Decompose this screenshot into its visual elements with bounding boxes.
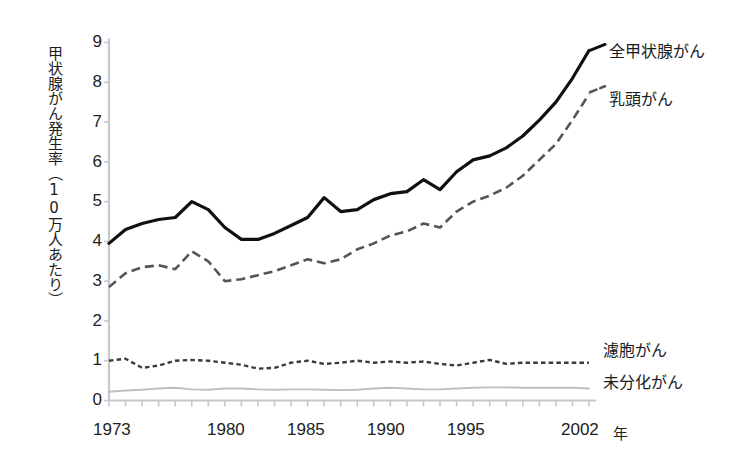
series-leader-all-thyroid	[590, 44, 605, 50]
series-line-1	[109, 50, 589, 243]
thyroid-cancer-incidence-chart: 甲状腺がん発生率（10万人あたり） 9 8 7 6 5 4 3 2 1 0 19…	[0, 0, 739, 470]
series-leader-papillary	[590, 86, 605, 92]
plot-area	[0, 0, 739, 470]
series-line-4	[109, 387, 589, 391]
series-line-3	[109, 359, 589, 369]
series-line-2	[109, 94, 589, 287]
